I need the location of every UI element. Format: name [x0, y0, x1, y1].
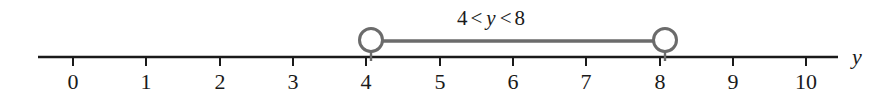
tick-label-8: 8: [640, 71, 680, 93]
tick-label-5: 5: [420, 71, 460, 93]
axis-variable-label: y: [852, 46, 862, 68]
tick-label-2: 2: [200, 71, 240, 93]
open-circle-endpoint-right: [654, 29, 677, 52]
tick-label-10: 10: [786, 71, 826, 93]
open-circle-endpoint-left: [360, 29, 383, 52]
number-line-figure: 4<y<8 0 1 2 3 4 5 6 7 8 9 10 y: [0, 0, 884, 98]
axis-ticks: [73, 57, 806, 66]
tick-label-1: 1: [126, 71, 166, 93]
inequality-upper-bound: 8: [515, 6, 526, 30]
inequality-label: 4<y<8: [457, 8, 525, 29]
tick-label-0: 0: [53, 71, 93, 93]
inequality-variable: y: [485, 6, 496, 30]
tick-label-3: 3: [273, 71, 313, 93]
inequality-right-relation: <: [497, 6, 515, 30]
tick-label-7: 7: [566, 71, 606, 93]
inequality-lower-bound: 4: [457, 6, 468, 30]
tick-label-4: 4: [346, 71, 386, 93]
tick-label-9: 9: [713, 71, 753, 93]
inequality-left-relation: <: [468, 6, 486, 30]
tick-label-6: 6: [493, 71, 533, 93]
